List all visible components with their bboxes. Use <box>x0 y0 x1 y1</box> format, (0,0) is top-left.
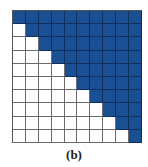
empty-cell <box>39 51 52 64</box>
filled-cell <box>129 103 142 116</box>
filled-cell <box>116 37 129 50</box>
empty-cell <box>52 90 65 103</box>
filled-cell <box>52 37 65 50</box>
filled-cell <box>116 24 129 37</box>
filled-cell <box>65 24 78 37</box>
empty-cell <box>116 130 129 143</box>
empty-cell <box>39 77 52 90</box>
filled-cell <box>90 11 103 24</box>
empty-cell <box>26 130 39 143</box>
filled-cell <box>13 11 26 24</box>
empty-cell <box>103 130 116 143</box>
empty-cell <box>26 103 39 116</box>
empty-cell <box>103 117 116 130</box>
empty-cell <box>13 51 26 64</box>
empty-cell <box>65 90 78 103</box>
filled-cell <box>116 103 129 116</box>
empty-cell <box>26 117 39 130</box>
empty-cell <box>26 51 39 64</box>
empty-cell <box>39 90 52 103</box>
filled-cell <box>129 24 142 37</box>
filled-cell <box>52 11 65 24</box>
empty-cell <box>52 77 65 90</box>
filled-cell <box>129 117 142 130</box>
filled-cell <box>39 24 52 37</box>
empty-cell <box>13 37 26 50</box>
filled-cell <box>103 51 116 64</box>
upper-triangular-grid <box>12 10 142 143</box>
filled-cell <box>103 11 116 24</box>
empty-cell <box>77 117 90 130</box>
filled-cell <box>90 37 103 50</box>
filled-cell <box>103 64 116 77</box>
filled-cell <box>77 51 90 64</box>
filled-cell <box>77 37 90 50</box>
filled-cell <box>90 64 103 77</box>
filled-cell <box>116 11 129 24</box>
filled-cell <box>65 64 78 77</box>
figure-caption: (b) <box>0 147 148 163</box>
empty-cell <box>39 117 52 130</box>
filled-cell <box>77 77 90 90</box>
filled-cell <box>129 130 142 143</box>
filled-cell <box>65 51 78 64</box>
filled-cell <box>129 51 142 64</box>
filled-cell <box>116 51 129 64</box>
empty-cell <box>77 103 90 116</box>
filled-cell <box>129 64 142 77</box>
filled-cell <box>116 77 129 90</box>
empty-cell <box>13 103 26 116</box>
empty-cell <box>39 130 52 143</box>
filled-cell <box>77 24 90 37</box>
empty-cell <box>52 64 65 77</box>
filled-cell <box>52 51 65 64</box>
filled-cell <box>26 11 39 24</box>
filled-cell <box>39 11 52 24</box>
empty-cell <box>13 130 26 143</box>
empty-cell <box>52 117 65 130</box>
filled-cell <box>103 77 116 90</box>
empty-cell <box>65 130 78 143</box>
empty-cell <box>90 130 103 143</box>
empty-cell <box>77 130 90 143</box>
filled-cell <box>116 90 129 103</box>
empty-cell <box>13 24 26 37</box>
filled-cell <box>103 90 116 103</box>
filled-cell <box>90 24 103 37</box>
empty-cell <box>90 103 103 116</box>
empty-cell <box>65 117 78 130</box>
empty-cell <box>65 77 78 90</box>
filled-cell <box>116 64 129 77</box>
filled-cell <box>77 64 90 77</box>
filled-cell <box>39 37 52 50</box>
empty-cell <box>13 117 26 130</box>
filled-cell <box>65 37 78 50</box>
filled-cell <box>129 37 142 50</box>
filled-cell <box>116 117 129 130</box>
filled-cell <box>52 24 65 37</box>
filled-cell <box>90 51 103 64</box>
empty-cell <box>26 37 39 50</box>
filled-cell <box>129 90 142 103</box>
filled-cell <box>103 37 116 50</box>
filled-cell <box>65 11 78 24</box>
empty-cell <box>13 90 26 103</box>
empty-cell <box>52 103 65 116</box>
filled-cell <box>77 11 90 24</box>
filled-cell <box>129 11 142 24</box>
filled-cell <box>90 90 103 103</box>
filled-cell <box>129 77 142 90</box>
filled-cell <box>103 103 116 116</box>
empty-cell <box>26 64 39 77</box>
empty-cell <box>77 90 90 103</box>
empty-cell <box>65 103 78 116</box>
filled-cell <box>103 24 116 37</box>
empty-cell <box>90 117 103 130</box>
empty-cell <box>13 64 26 77</box>
empty-cell <box>39 103 52 116</box>
empty-cell <box>39 64 52 77</box>
filled-cell <box>26 24 39 37</box>
empty-cell <box>26 90 39 103</box>
empty-cell <box>52 130 65 143</box>
empty-cell <box>26 77 39 90</box>
